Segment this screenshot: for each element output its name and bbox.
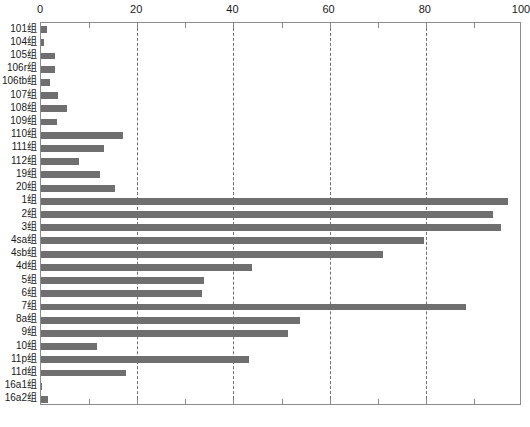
y-axis-category-label: 110组 xyxy=(11,128,37,139)
x-axis-tick-label: 20 xyxy=(130,3,142,15)
bar-row[interactable] xyxy=(41,92,520,99)
y-axis-category-label: 2组 xyxy=(21,208,37,219)
bar-row[interactable] xyxy=(41,53,520,60)
bar-row[interactable] xyxy=(41,26,520,33)
bar-row[interactable] xyxy=(41,171,520,178)
bar-row[interactable] xyxy=(41,132,520,139)
x-axis-tick-label: 40 xyxy=(226,3,238,15)
bar-row[interactable] xyxy=(41,251,520,258)
y-axis-category-label: 11d组 xyxy=(11,366,37,377)
plot-area xyxy=(40,22,521,405)
y-axis-category-label: 106tb组 xyxy=(2,75,37,86)
bar-row[interactable] xyxy=(41,396,520,403)
bar-row[interactable] xyxy=(41,343,520,350)
y-axis-category-label: 5组 xyxy=(21,274,37,285)
x-axis-tick-label: 80 xyxy=(419,3,431,15)
bar[interactable] xyxy=(41,224,501,231)
bar-row[interactable] xyxy=(41,105,520,112)
bar[interactable] xyxy=(41,317,300,324)
bar[interactable] xyxy=(41,356,249,363)
y-axis-category-label: 4sb组 xyxy=(11,247,37,258)
bar[interactable] xyxy=(41,290,202,297)
bar[interactable] xyxy=(41,145,104,152)
bar-series-layer xyxy=(41,23,520,404)
bar[interactable] xyxy=(41,92,58,99)
y-axis-category-label: 8a组 xyxy=(16,313,37,324)
y-axis-category-label: 1组 xyxy=(21,194,37,205)
y-axis-category-label: 105组 xyxy=(10,49,37,60)
y-axis-category-label: 6组 xyxy=(21,287,37,298)
bar-row[interactable] xyxy=(41,224,520,231)
y-axis-category-label: 108组 xyxy=(10,102,37,113)
bar-row[interactable] xyxy=(41,277,520,284)
bar-row[interactable] xyxy=(41,145,520,152)
y-axis-category-label: 16a2组 xyxy=(5,392,37,403)
y-axis-category-label: 10组 xyxy=(16,340,37,351)
bar[interactable] xyxy=(41,66,55,73)
bar-row[interactable] xyxy=(41,79,520,86)
bar[interactable] xyxy=(41,53,55,60)
bar-row[interactable] xyxy=(41,304,520,311)
bar[interactable] xyxy=(41,119,57,126)
bar-row[interactable] xyxy=(41,66,520,73)
x-axis-tick-label: 100 xyxy=(512,3,530,15)
bar[interactable] xyxy=(41,185,115,192)
y-axis-category-label: 101组 xyxy=(10,23,37,34)
bar[interactable] xyxy=(41,198,508,205)
y-axis-category-label: 104组 xyxy=(10,36,37,47)
bar-row[interactable] xyxy=(41,39,520,46)
y-axis-category-label: 111组 xyxy=(12,141,37,152)
bar-row[interactable] xyxy=(41,185,520,192)
bar[interactable] xyxy=(41,330,288,337)
y-axis-category-label: 112组 xyxy=(11,155,37,166)
bar-row[interactable] xyxy=(41,370,520,377)
bar-row[interactable] xyxy=(41,119,520,126)
y-axis-category-label: 3组 xyxy=(21,221,37,232)
y-axis-category-label: 109组 xyxy=(10,115,37,126)
y-axis-category-label: 106r组 xyxy=(7,62,37,73)
bar[interactable] xyxy=(41,383,42,390)
bar[interactable] xyxy=(41,396,48,403)
bar-row[interactable] xyxy=(41,237,520,244)
bar[interactable] xyxy=(41,171,100,178)
bar-row[interactable] xyxy=(41,356,520,363)
bar[interactable] xyxy=(41,211,493,218)
bar[interactable] xyxy=(41,79,50,86)
bar[interactable] xyxy=(41,237,424,244)
bar-row[interactable] xyxy=(41,264,520,271)
bar[interactable] xyxy=(41,264,252,271)
bar-row[interactable] xyxy=(41,383,520,390)
bar-row[interactable] xyxy=(41,330,520,337)
bar-row[interactable] xyxy=(41,158,520,165)
bar[interactable] xyxy=(41,132,123,139)
bar[interactable] xyxy=(41,304,466,311)
bar-row[interactable] xyxy=(41,290,520,297)
bar-row[interactable] xyxy=(41,317,520,324)
x-axis-tick-label: 0 xyxy=(37,3,43,15)
x-axis-tick-label-band: 020406080100 xyxy=(0,0,529,22)
y-axis-category-label: 4d组 xyxy=(16,260,37,271)
y-axis-category-label: 16a1组 xyxy=(5,379,37,390)
y-axis-category-label: 20组 xyxy=(16,181,37,192)
bar[interactable] xyxy=(41,277,204,284)
bar-row[interactable] xyxy=(41,198,520,205)
y-axis-category-label: 19组 xyxy=(16,168,37,179)
y-axis-category-label: 9组 xyxy=(21,326,37,337)
y-axis-category-label: 107组 xyxy=(10,89,37,100)
bar-row[interactable] xyxy=(41,211,520,218)
bar[interactable] xyxy=(41,370,126,377)
bar[interactable] xyxy=(41,158,79,165)
bar[interactable] xyxy=(41,105,67,112)
y-axis-category-label-band: 101组104组105组106r组106tb组107组108组109组110组1… xyxy=(0,22,37,405)
y-axis-category-label: 11p组 xyxy=(11,353,37,364)
bar[interactable] xyxy=(41,26,47,33)
y-axis-category-label: 7组 xyxy=(21,300,37,311)
x-axis-tick-label: 60 xyxy=(322,3,334,15)
bar[interactable] xyxy=(41,251,383,258)
y-axis-category-label: 4sa组 xyxy=(11,234,37,245)
bar[interactable] xyxy=(41,343,97,350)
bar[interactable] xyxy=(41,39,44,46)
